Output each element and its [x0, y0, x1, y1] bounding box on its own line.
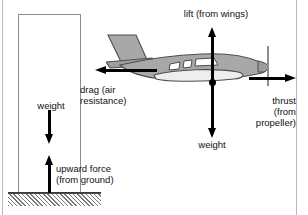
label-weight-pillar: weight: [30, 100, 72, 111]
arrow-shaft: [105, 69, 157, 72]
weight-arrow-pillar: [45, 110, 54, 144]
arrow-shaft: [48, 164, 51, 193]
arrow-shaft: [48, 110, 51, 135]
plane-nose-cone: [258, 61, 268, 72]
label-upward-force: upward force (from ground): [56, 163, 146, 185]
arrow-head-down-icon: [208, 128, 216, 138]
arrow-shaft: [211, 78, 214, 129]
ground-hatching: [8, 193, 101, 206]
label-weight-plane: weight: [182, 139, 242, 150]
drag-arrow: [95, 66, 157, 75]
frame-right-border: [296, 0, 297, 215]
upward-force-arrow-pillar: [45, 155, 54, 193]
thrust-arrow: [249, 74, 296, 83]
plane-window-mid: [183, 60, 192, 68]
arrow-shaft: [249, 77, 286, 80]
weight-arrow-plane: [208, 78, 217, 139]
arrow-head-right-icon: [285, 74, 296, 82]
label-lift: lift (from wings): [160, 8, 272, 19]
frame-left-border: [2, 0, 3, 215]
label-thrust: thrust (from propeller): [236, 95, 296, 128]
force-diagram-figure: weight upward force (from ground) lift (…: [0, 0, 308, 215]
label-drag: drag (air resistance): [80, 84, 158, 106]
arrow-head-down-icon: [45, 134, 53, 144]
